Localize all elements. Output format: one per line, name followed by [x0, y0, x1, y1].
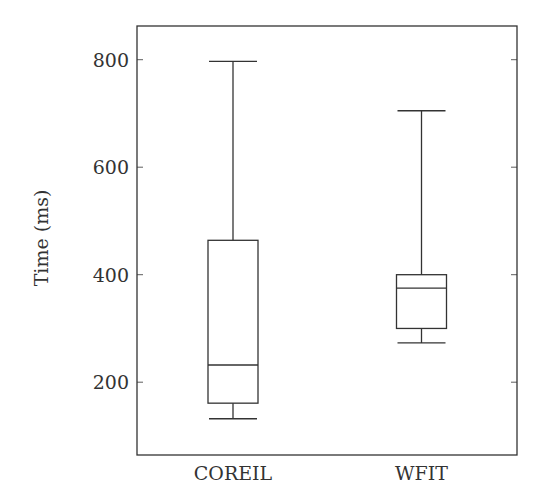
- y-tick-label: 400: [93, 264, 129, 286]
- iqr-box: [397, 275, 447, 329]
- x-axis-labels: COREILWFIT: [194, 462, 448, 484]
- y-tick-label: 800: [93, 49, 129, 71]
- plot-frame: [137, 26, 517, 455]
- boxes: [208, 61, 447, 418]
- boxplot-chart: 200400600800 COREILWFIT Time (ms): [0, 0, 543, 502]
- y-tick-label: 200: [93, 371, 129, 393]
- box-wfit: [397, 111, 447, 343]
- box-coreil: [208, 61, 258, 418]
- iqr-box: [208, 240, 258, 403]
- y-axis-title: Time (ms): [30, 190, 52, 287]
- x-category-label: WFIT: [395, 462, 448, 484]
- y-axis-ticks: 200400600800: [93, 49, 517, 394]
- y-tick-label: 600: [93, 156, 129, 178]
- x-category-label: COREIL: [194, 462, 273, 484]
